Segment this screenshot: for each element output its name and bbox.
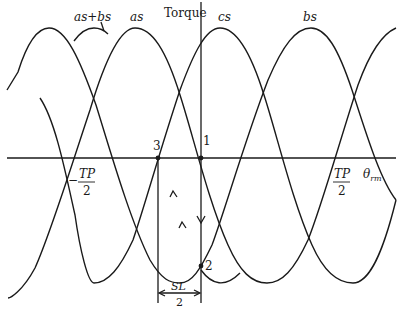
point-1-label: 1 <box>203 134 211 148</box>
stepper-torque-diagram: Torque as+bs as cs bs 3 1 2 − TP 2 TP 2 … <box>0 0 403 313</box>
point-3-label: 3 <box>153 139 161 153</box>
cs-label: cs <box>218 10 231 24</box>
point-3-marker <box>156 156 161 161</box>
as-plus-bs-label: as+bs <box>74 10 111 24</box>
point-1-marker <box>199 156 204 161</box>
arrow-up-icon <box>179 222 186 228</box>
neg-sign: − <box>68 173 78 187</box>
point-2-marker <box>199 264 204 269</box>
theta-subscript: rm <box>370 174 382 183</box>
bs-label: bs <box>303 10 317 24</box>
neg-tp-numerator: TP <box>79 167 96 181</box>
arrow-up-icon <box>170 191 177 197</box>
torque-axis-label: Torque <box>164 6 207 20</box>
pos-tp-numerator: TP <box>334 167 351 181</box>
as-label: as <box>130 10 143 24</box>
neg-tp-denominator: 2 <box>83 184 91 198</box>
pos-tp-denominator: 2 <box>338 184 346 198</box>
phase-curve-as-plus-bs <box>74 28 108 41</box>
point-2-label: 2 <box>205 259 213 273</box>
sl-numerator: SL <box>171 280 186 293</box>
sl-denominator: 2 <box>176 296 183 309</box>
phase-curve-as <box>8 28 396 298</box>
